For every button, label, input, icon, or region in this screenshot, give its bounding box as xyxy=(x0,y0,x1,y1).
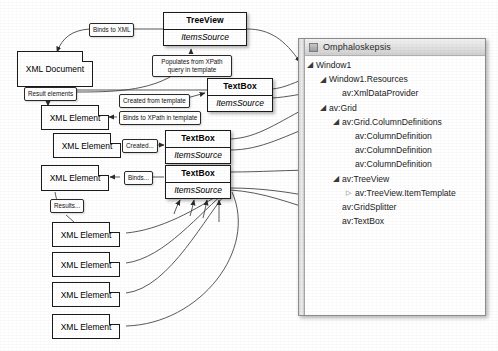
tree-item-label: av:Grid.ColumnDefinitions xyxy=(342,117,442,127)
node-textbox-3[interactable]: TextBox ItemsSource xyxy=(165,165,231,199)
tree-row[interactable]: av:ColumnDefinition xyxy=(307,157,483,171)
omphaloskepsis-window[interactable]: Omphaloskepsis Window1Window1.Resourcesa… xyxy=(298,38,486,316)
tree-item-label: av:TreeView xyxy=(342,174,389,184)
node-xml-element-5[interactable]: XML Element xyxy=(52,252,120,277)
node-xml-element-4-label: XML Element xyxy=(52,222,120,247)
tree-item-label: Window1 xyxy=(316,60,351,70)
node-textbox-3-title: TextBox xyxy=(166,166,230,183)
annotation-binds-to-xml: Binds to XML xyxy=(89,23,134,37)
annotation-created-from-template: Created from template xyxy=(119,94,190,108)
node-textbox-1-title: TextBox xyxy=(208,79,272,96)
node-xml-element-6[interactable]: XML Element xyxy=(52,282,120,307)
tree-item-label: av:XmlDataProvider xyxy=(342,88,418,98)
node-xml-element-1-label: XML Element xyxy=(41,105,109,130)
tree-row[interactable]: av:Grid.ColumnDefinitions xyxy=(307,115,483,129)
window-title: Omphaloskepsis xyxy=(323,42,391,52)
node-textbox-2-title: TextBox xyxy=(166,131,230,148)
expand-arrow-icon[interactable] xyxy=(333,118,342,126)
window-titlebar[interactable]: Omphaloskepsis xyxy=(305,39,485,56)
node-xml-element-5-label: XML Element xyxy=(52,252,120,277)
tree-row[interactable]: Window1 xyxy=(307,58,483,72)
node-xml-element-3-label: XML Element xyxy=(41,165,109,191)
tree-row[interactable]: av:Grid xyxy=(307,101,483,115)
annotation-created-short: Created... xyxy=(122,139,158,153)
tree-item-label: av:TextBox xyxy=(342,216,384,226)
node-xml-element-4[interactable]: XML Element xyxy=(52,222,120,247)
tree-item-label: av:ColumnDefinition xyxy=(355,131,432,141)
node-xml-element-7[interactable]: XML Element xyxy=(52,314,120,339)
annotation-result-elements: Result elements xyxy=(24,87,77,101)
annotation-results-short: Results... xyxy=(50,199,84,213)
node-xml-document-label: XML Document xyxy=(17,51,93,87)
tree-item-label: av:ColumnDefinition xyxy=(355,145,432,155)
tree-row[interactable]: Window1.Resources xyxy=(307,72,483,86)
tree-item-label: Window1.Resources xyxy=(329,74,408,84)
tree-row[interactable]: av:TextBox xyxy=(307,214,483,228)
node-textbox-2[interactable]: TextBox ItemsSource xyxy=(165,130,231,164)
tree-row[interactable]: av:TreeView xyxy=(307,172,483,186)
window-left-gutter xyxy=(299,39,305,315)
expand-arrow-icon[interactable] xyxy=(320,76,329,84)
expand-arrow-icon[interactable] xyxy=(333,175,342,183)
node-xml-element-7-label: XML Element xyxy=(52,314,120,339)
tree-item-label: av:ColumnDefinition xyxy=(355,159,432,169)
xaml-tree[interactable]: Window1Window1.Resourcesav:XmlDataProvid… xyxy=(307,58,483,313)
tree-item-label: av:GridSplitter xyxy=(342,202,396,212)
node-textbox-1-property: ItemsSource xyxy=(208,96,272,111)
node-xml-element-3[interactable]: XML Element xyxy=(41,165,109,191)
node-textbox-3-property: ItemsSource xyxy=(166,183,230,198)
annotation-binds-to-xpath: Binds to XPath in template xyxy=(119,111,201,125)
node-textbox-2-property: ItemsSource xyxy=(166,148,230,163)
node-treeview-title: TreeView xyxy=(164,13,246,30)
tree-item-label: av:Grid xyxy=(329,103,357,113)
tree-row[interactable]: av:XmlDataProvider xyxy=(307,86,483,100)
node-treeview-property: ItemsSource xyxy=(164,30,246,45)
annotation-populates-from-xpath: Populates from XPath query in template xyxy=(152,55,232,77)
tree-item-label: av:TreeView.ItemTemplate xyxy=(355,188,456,198)
tree-row[interactable]: av:TreeView.ItemTemplate xyxy=(307,186,483,200)
node-xml-element-2-label: XML Element xyxy=(53,133,121,158)
expand-arrow-icon[interactable] xyxy=(307,61,316,69)
node-xml-document[interactable]: XML Document xyxy=(17,51,93,87)
tree-row[interactable]: av:GridSplitter xyxy=(307,200,483,214)
collapse-arrow-icon[interactable] xyxy=(346,189,355,197)
node-textbox-1[interactable]: TextBox ItemsSource xyxy=(207,78,273,112)
tree-row[interactable]: av:ColumnDefinition xyxy=(307,143,483,157)
node-xml-element-1[interactable]: XML Element xyxy=(41,105,109,130)
tree-row[interactable]: av:ColumnDefinition xyxy=(307,129,483,143)
window-icon xyxy=(309,43,318,52)
annotation-binds-short: Binds... xyxy=(124,171,153,185)
node-treeview[interactable]: TreeView ItemsSource xyxy=(163,12,247,46)
node-xml-element-6-label: XML Element xyxy=(52,282,120,307)
node-xml-element-2[interactable]: XML Element xyxy=(53,133,121,158)
expand-arrow-icon[interactable] xyxy=(320,104,329,112)
diagram-canvas: TreeView ItemsSource TextBox ItemsSource… xyxy=(0,0,498,351)
